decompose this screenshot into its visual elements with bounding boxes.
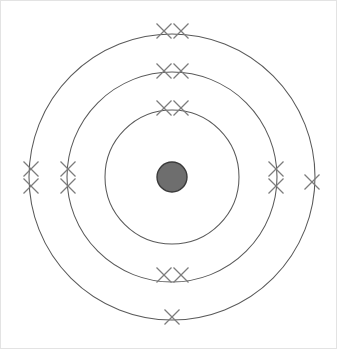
electron-s3-top-right: [174, 24, 189, 39]
nucleus: [157, 162, 187, 192]
electron-s3-top-left: [157, 24, 172, 39]
diagram-canvas: [0, 0, 337, 349]
electron-s3-left-lower: [24, 179, 39, 194]
electron-s2-top-right: [174, 64, 189, 79]
electron-s3-bottom: [165, 310, 180, 325]
electron-s3-left-upper: [24, 162, 39, 177]
nucleus-group: [157, 162, 187, 192]
electron-s3-right: [305, 175, 320, 190]
electron-s2-bottom-left: [157, 268, 172, 283]
electron-s1-top-right: [174, 101, 189, 116]
electron-s2-top-left: [157, 64, 172, 79]
electron-s1-top-left: [157, 101, 172, 116]
atomic-shell-diagram: [0, 0, 337, 349]
electron-s2-bottom-right: [174, 268, 189, 283]
